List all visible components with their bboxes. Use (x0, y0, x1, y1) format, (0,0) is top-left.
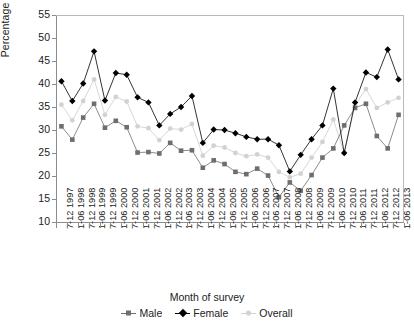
data-point (80, 80, 86, 86)
legend-item-female[interactable]: Female (175, 307, 228, 319)
data-point (200, 153, 205, 158)
legend-item-male[interactable]: Male (121, 307, 162, 319)
data-point (277, 169, 282, 174)
legend-item-overall[interactable]: Overall (241, 307, 292, 319)
x-tick-mark (361, 223, 362, 228)
data-point (331, 117, 336, 122)
data-point (384, 46, 390, 52)
x-tick-mark (132, 223, 133, 228)
data-point (385, 146, 390, 151)
data-point (103, 112, 108, 117)
data-point (114, 119, 119, 124)
x-tick-mark (110, 223, 111, 228)
x-axis-title: Month of survey (0, 291, 414, 303)
data-point (69, 98, 75, 104)
data-point (309, 155, 314, 160)
data-point (124, 125, 129, 130)
data-point (70, 118, 75, 123)
x-tick-mark (89, 223, 90, 228)
data-point (157, 151, 162, 156)
data-point (276, 142, 282, 148)
data-point (233, 170, 238, 175)
x-tick-mark (67, 223, 68, 228)
data-point (59, 102, 64, 107)
y-tick-label: 30 (20, 123, 50, 135)
y-tick-label: 45 (20, 54, 50, 66)
data-point (265, 136, 271, 142)
x-tick-mark (143, 223, 144, 228)
chart-legend: MaleFemaleOverall (0, 307, 414, 319)
x-tick-mark (382, 223, 383, 228)
data-point (266, 173, 271, 178)
data-point (396, 95, 401, 100)
data-point (190, 148, 195, 153)
line-chart: Percentage 10152025303540455055 7-12 199… (0, 0, 414, 325)
series-line (61, 79, 398, 177)
legend-swatch (121, 313, 136, 314)
legend-swatch (241, 313, 256, 314)
data-point (244, 154, 249, 159)
x-tick-mark (328, 223, 329, 228)
data-point (364, 87, 369, 92)
data-point (70, 137, 75, 142)
data-point (287, 175, 292, 180)
x-tick-mark (187, 223, 188, 228)
data-point (233, 151, 238, 156)
data-point (254, 136, 260, 142)
x-tick-label: 1-06 2011 (358, 188, 368, 229)
x-tick-mark (371, 223, 372, 228)
data-point (266, 155, 271, 160)
data-point (309, 173, 314, 178)
y-axis-title: Percentage (0, 0, 11, 95)
y-tick-label: 20 (20, 169, 50, 181)
data-point (211, 143, 216, 148)
data-point (81, 115, 86, 120)
data-point (364, 101, 369, 106)
x-tick-label: 1-06 2003 (184, 188, 194, 229)
x-tick-mark (121, 223, 122, 228)
data-point (211, 158, 216, 163)
legend-label: Female (193, 307, 228, 319)
data-point (113, 94, 118, 99)
data-point (58, 78, 64, 84)
y-tick-label: 35 (20, 100, 50, 112)
x-tick-mark (154, 223, 155, 228)
data-point (222, 145, 227, 150)
data-point (146, 126, 151, 131)
x-tick-mark (317, 223, 318, 228)
x-tick-mark (230, 223, 231, 228)
data-point (103, 125, 108, 130)
data-point (92, 101, 97, 106)
legend-marker-icon (126, 311, 131, 316)
data-point (113, 70, 119, 76)
x-tick-mark (100, 223, 101, 228)
data-point (135, 150, 140, 155)
x-tick-mark (78, 223, 79, 228)
data-point (92, 77, 97, 82)
x-tick-mark (252, 223, 253, 228)
x-tick-mark (404, 223, 405, 228)
data-point (157, 138, 162, 143)
data-point (288, 180, 293, 185)
data-point (374, 74, 380, 80)
series-line (61, 50, 398, 172)
y-tick-label: 10 (20, 215, 50, 227)
data-point (221, 127, 227, 133)
data-point (135, 124, 140, 129)
y-tick-label: 25 (20, 146, 50, 158)
x-tick-mark (165, 223, 166, 228)
data-point (59, 124, 64, 129)
data-point (102, 97, 108, 103)
legend-label: Overall (259, 307, 292, 319)
x-tick-label: 1-06 1999 (97, 188, 107, 229)
data-point (145, 99, 151, 105)
data-point (255, 166, 260, 171)
x-tick-mark (263, 223, 264, 228)
data-point (124, 99, 129, 104)
x-tick-mark (197, 223, 198, 228)
data-point (222, 162, 227, 167)
data-point (385, 100, 390, 105)
data-point (331, 146, 336, 151)
y-tick-label: 15 (20, 192, 50, 204)
data-point (297, 152, 303, 158)
